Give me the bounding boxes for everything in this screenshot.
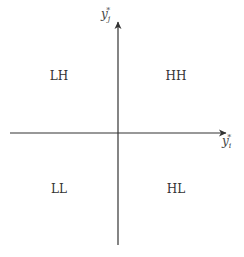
quadrant-label-bottom-right: HL: [167, 182, 185, 196]
quadrant-diagram: [0, 0, 244, 257]
quadrant-label-top-left: LH: [50, 69, 68, 83]
quadrant-label-bottom-left: LL: [51, 182, 67, 196]
quadrant-label-top-right: HH: [166, 69, 187, 83]
x-axis-label: yi*: [222, 133, 231, 150]
y-axis-label: yj*: [101, 6, 110, 23]
